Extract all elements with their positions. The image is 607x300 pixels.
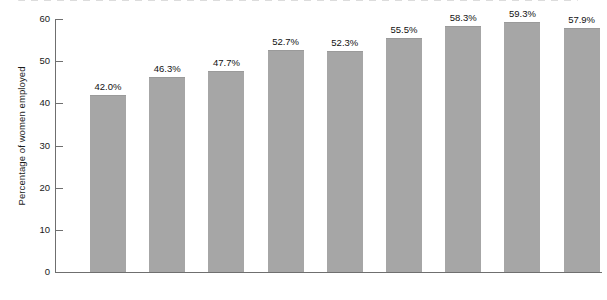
bar [504, 22, 540, 272]
bar [327, 51, 363, 272]
y-axis-tick-label: 30 [39, 139, 50, 152]
bar-chart-figure: Percentage of women employed 01020304050… [0, 0, 607, 300]
bar-value-label: 55.5% [376, 24, 432, 36]
bar-value-label: 46.3% [139, 63, 195, 75]
y-axis-tick-label: 0 [45, 265, 50, 278]
y-axis-tick-mark [56, 272, 63, 273]
x-axis-line [55, 272, 602, 273]
title-ink-remnant [18, 0, 578, 1]
bar-series: 42.0%197646.3%198047.7%198452.7%198852.3… [55, 19, 602, 272]
bar [208, 71, 244, 272]
bar-value-label: 57.9% [554, 14, 607, 26]
y-axis-tick-label: 50 [39, 54, 50, 67]
y-axis-tick-label: 20 [39, 181, 50, 194]
bar [386, 38, 422, 272]
bar-value-label: 42.0% [80, 81, 136, 93]
bar [149, 77, 185, 272]
cropped-title-strip [0, 0, 607, 7]
bar-value-label: 59.3% [494, 8, 550, 20]
bar-value-label: 52.3% [317, 37, 373, 49]
bar [268, 50, 304, 272]
bar-value-label: 47.7% [198, 57, 254, 69]
y-axis-tick-label: 10 [39, 223, 50, 236]
bar-value-label: 52.7% [258, 36, 314, 48]
y-axis-title: Percentage of women employed [14, 0, 30, 272]
y-axis-tick-label: 40 [39, 96, 50, 109]
bar [564, 28, 600, 272]
y-axis-tick: 0 [55, 272, 63, 273]
y-axis-tick-label: 60 [39, 12, 50, 25]
bar [445, 26, 481, 272]
plot-area: 0102030405060 42.0%197646.3%198047.7%198… [55, 19, 602, 272]
bar-value-label: 58.3% [435, 12, 491, 24]
bar [90, 95, 126, 272]
